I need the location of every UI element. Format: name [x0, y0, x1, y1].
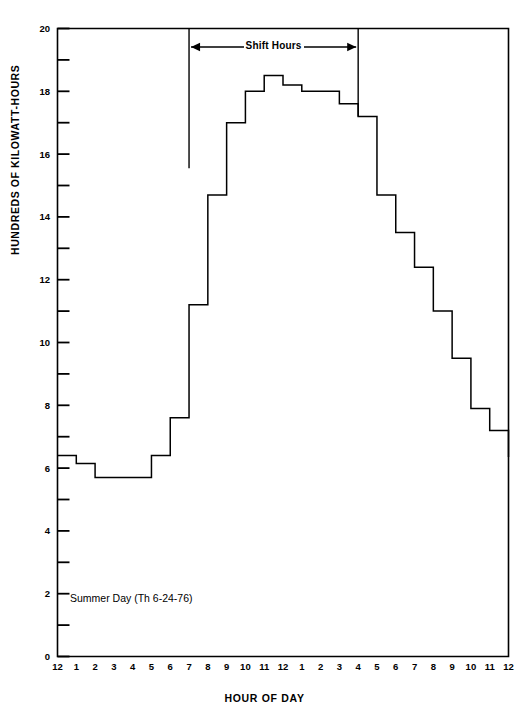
x-tick-label: 11: [480, 661, 500, 672]
x-tick-label: 10: [461, 661, 481, 672]
x-tick-label: 12: [273, 661, 293, 672]
y-tick-label: 6: [28, 463, 50, 474]
shift-hours-label: Shift Hours: [244, 40, 304, 51]
y-tick-label: 16: [28, 149, 50, 160]
x-tick-label: 1: [292, 661, 312, 672]
x-tick-label: 2: [85, 661, 105, 672]
x-tick-label: 7: [405, 661, 425, 672]
chart-container: HUNDREDS OF KILOWATT-HOURS HOUR OF DAY S…: [0, 0, 529, 725]
shift-arrow-right-head: [347, 43, 356, 51]
x-tick-label: 11: [254, 661, 274, 672]
x-tick-label: 10: [235, 661, 255, 672]
y-tick-label: 14: [28, 211, 50, 222]
x-tick-label: 3: [329, 661, 349, 672]
load-profile-chart: [0, 0, 529, 725]
chart-annotation: Summer Day (Th 6-24-76): [70, 592, 193, 604]
y-tick-label: 10: [28, 337, 50, 348]
y-tick-label: 4: [28, 525, 50, 536]
shift-arrow-left-head: [191, 43, 200, 51]
x-tick-label: 4: [348, 661, 368, 672]
x-tick-label: 3: [104, 661, 124, 672]
x-tick-label: 6: [160, 661, 180, 672]
x-tick-label: 9: [217, 661, 237, 672]
x-tick-label: 8: [423, 661, 443, 672]
x-tick-label: 7: [179, 661, 199, 672]
x-tick-label: 1: [66, 661, 86, 672]
y-tick-label: 8: [28, 400, 50, 411]
y-axis-title: HUNDREDS OF KILOWATT-HOURS: [9, 65, 21, 255]
y-tick-label: 20: [28, 23, 50, 34]
y-tick-label: 2: [28, 588, 50, 599]
y-tick-label: 12: [28, 274, 50, 285]
x-tick-label: 2: [311, 661, 331, 672]
x-tick-label: 9: [442, 661, 462, 672]
x-tick-label: 5: [141, 661, 161, 672]
x-tick-label: 5: [367, 661, 387, 672]
x-tick-label: 8: [198, 661, 218, 672]
x-axis-title: HOUR OF DAY: [0, 692, 529, 704]
plot-frame: [58, 29, 509, 657]
x-tick-label: 12: [48, 661, 68, 672]
x-tick-label: 6: [386, 661, 406, 672]
x-tick-label: 12: [499, 661, 519, 672]
x-tick-label: 4: [123, 661, 143, 672]
y-tick-label: 18: [28, 86, 50, 97]
load-curve: [58, 76, 509, 478]
